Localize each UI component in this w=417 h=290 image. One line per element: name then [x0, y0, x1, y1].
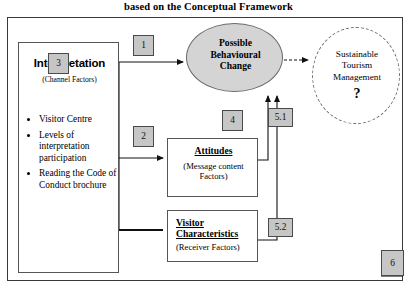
attitudes-heading: Attitudes: [168, 145, 259, 156]
possible-line-1: Possible: [187, 37, 284, 49]
badge-3[interactable]: 3: [48, 53, 69, 74]
sustainable-line-1: Sustainable: [313, 49, 401, 60]
list-item-label: Levels of interpretation participation: [39, 130, 90, 163]
list-item: Reading the Code of Conduct brochure: [25, 168, 118, 191]
visitor-characteristics-heading-line-1: Visitor: [176, 217, 256, 228]
interpretation-subheading: (Channel Factors): [19, 75, 120, 84]
possible-behavioural-change-ellipse[interactable]: Possible Behavioural Change: [186, 23, 283, 92]
list-item: Levels of interpretation participation: [25, 130, 118, 165]
sustainable-tourism-management-ellipse[interactable]: Sustainable Tourism Management ?: [312, 27, 400, 124]
sustainable-tourism-management-label: Sustainable Tourism Management: [313, 49, 401, 83]
visitor-characteristics-heading: Visitor Characteristics: [176, 217, 256, 239]
diagram-canvas: based on the Conceptual Framework: [0, 0, 417, 290]
possible-behavioural-change-label: Possible Behavioural Change: [187, 37, 284, 72]
list-item: Visitor Centre: [25, 114, 118, 126]
badge-5-1[interactable]: 5.1: [268, 108, 293, 127]
list-item-label: Visitor Centre: [39, 114, 92, 124]
list-item-label: Reading the Code of Conduct brochure: [39, 168, 116, 190]
interpretation-box[interactable]: Interpretation (Channel Factors) Visitor…: [18, 42, 119, 273]
attitudes-box[interactable]: Attitudes (Message content Factors): [167, 138, 258, 197]
visitor-characteristics-heading-line-2: Characteristics: [176, 228, 256, 239]
interpretation-heading: Interpretation: [19, 57, 120, 69]
page-title: based on the Conceptual Framework: [0, 1, 417, 12]
visitor-characteristics-subheading: (Receiver Factors): [176, 242, 258, 252]
attitudes-subheading: (Message content Factors): [170, 161, 257, 181]
sustainable-line-3: Management: [313, 72, 401, 83]
question-mark-label: ?: [313, 86, 401, 102]
badge-5-2[interactable]: 5.2: [268, 218, 293, 237]
badge-6[interactable]: 6: [381, 250, 404, 276]
badge-4[interactable]: 4: [222, 110, 243, 131]
interpretation-bullet-list: Visitor Centre Levels of interpretation …: [25, 114, 118, 196]
possible-line-3: Change: [187, 60, 284, 72]
sustainable-line-2: Tourism: [313, 60, 401, 71]
bullet-dot-icon: [27, 134, 30, 137]
possible-line-2: Behavioural: [187, 49, 284, 61]
badge-1[interactable]: 1: [133, 35, 154, 56]
bullet-dot-icon: [27, 118, 30, 121]
bullet-dot-icon: [27, 172, 30, 175]
visitor-characteristics-box[interactable]: Visitor Characteristics (Receiver Factor…: [167, 210, 258, 262]
badge-2[interactable]: 2: [133, 126, 154, 147]
